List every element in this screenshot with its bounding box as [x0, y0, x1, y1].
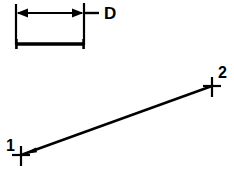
- segment-arrowhead-at-point-1-icon: [22, 148, 37, 155]
- line-segment-group: 1 2: [6, 64, 227, 166]
- diagram-canvas: D 1 2: [0, 0, 234, 178]
- point-1-label: 1: [6, 137, 15, 154]
- arrowhead-right-icon: [72, 9, 84, 18]
- arrowhead-left-icon: [17, 9, 29, 18]
- dimension-block: D: [16, 3, 116, 49]
- technical-dimension-diagram: D 1 2: [0, 0, 234, 178]
- segment-line-1-to-2: [21, 86, 212, 155]
- dimension-label-d: D: [104, 4, 116, 23]
- point-2-label: 2: [218, 64, 227, 81]
